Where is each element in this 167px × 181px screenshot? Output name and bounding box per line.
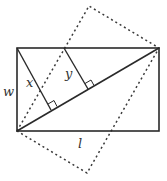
label-x: x	[26, 75, 34, 90]
rectangle-diagram: w x y l	[0, 0, 167, 181]
right-angle-mark-y	[85, 80, 94, 86]
perpendicular-x	[17, 48, 51, 110]
label-y: y	[64, 66, 73, 81]
label-l: l	[78, 136, 82, 151]
label-w: w	[3, 84, 14, 99]
diagonal-line	[17, 48, 159, 131]
